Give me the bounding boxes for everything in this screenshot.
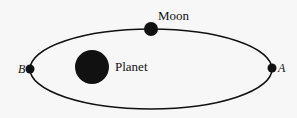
planet-body — [75, 50, 109, 84]
orbit-ellipse — [30, 29, 272, 109]
point-a-label: A — [277, 61, 286, 75]
orbit-diagram: Planet Moon A B — [0, 0, 297, 118]
point-b-marker — [26, 65, 35, 74]
point-b-label: B — [18, 62, 26, 76]
planet-label: Planet — [115, 59, 148, 74]
point-a-marker — [268, 64, 277, 73]
moon-body — [144, 22, 158, 36]
moon-label: Moon — [158, 8, 190, 23]
